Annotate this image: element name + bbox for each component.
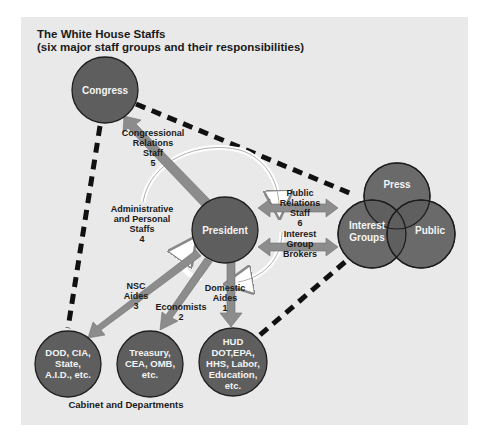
- svg-text:Aides: Aides: [124, 291, 149, 301]
- svg-text:Staffs: Staffs: [129, 224, 154, 234]
- dod-label-3: A.I.D., etc.: [45, 369, 91, 380]
- svg-text:Relations: Relations: [133, 138, 174, 148]
- svg-text:6: 6: [297, 218, 302, 228]
- label-interest-brokers: Interest Group Brokers: [283, 229, 317, 259]
- president-label: President: [202, 225, 248, 236]
- label-congressional: Congressional Relations Staff 5: [122, 128, 185, 168]
- dash-congress-dod: [68, 126, 100, 328]
- congress-label: Congress: [82, 85, 129, 96]
- svg-text:Public: Public: [286, 188, 313, 198]
- public-label: Public: [415, 225, 445, 236]
- interest-groups-label-1: Interest: [349, 220, 386, 231]
- svg-text:1: 1: [222, 303, 227, 313]
- treasury-label-1: Treasury,: [129, 347, 171, 358]
- svg-text:Aides: Aides: [213, 293, 238, 303]
- svg-text:2: 2: [178, 312, 183, 322]
- hud-label-4: Education,: [209, 369, 258, 380]
- label-administrative: Administrative and Personal Staffs 4: [111, 204, 174, 244]
- svg-text:Group: Group: [287, 239, 314, 249]
- treasury-label-3: etc.: [142, 369, 158, 380]
- hud-label-5: etc.: [225, 380, 241, 391]
- svg-text:and Personal: and Personal: [114, 214, 171, 224]
- treasury-label-2: CEA, OMB,: [125, 358, 175, 369]
- svg-text:Relations: Relations: [280, 198, 321, 208]
- svg-text:3: 3: [133, 301, 138, 311]
- hud-label-1: HUD: [223, 336, 244, 347]
- svg-text:Economists: Economists: [155, 302, 206, 312]
- svg-text:Congressional: Congressional: [122, 128, 185, 138]
- press-label: Press: [383, 179, 411, 190]
- svg-text:Staff: Staff: [143, 148, 164, 158]
- svg-text:Domestic: Domestic: [205, 283, 246, 293]
- svg-text:5: 5: [150, 158, 155, 168]
- svg-text:4: 4: [139, 234, 144, 244]
- hud-label-3: HHS, Labor,: [206, 358, 260, 369]
- white-house-staff-diagram: Congress President Press Public Interest…: [0, 0, 489, 446]
- dod-label-2: State,: [55, 358, 81, 369]
- hud-label-2: DOT,EPA,: [211, 347, 254, 358]
- dod-label-1: DOD, CIA,: [45, 347, 90, 358]
- svg-text:Staff: Staff: [290, 208, 311, 218]
- svg-text:Interest: Interest: [284, 229, 317, 239]
- svg-text:Brokers: Brokers: [283, 249, 317, 259]
- label-domestic: Domestic Aides 1: [205, 283, 246, 313]
- interest-groups-label-2: Groups: [349, 232, 385, 243]
- footer-label: Cabinet and Departments: [68, 399, 183, 410]
- svg-text:NSC: NSC: [126, 281, 146, 291]
- svg-text:Administrative: Administrative: [111, 204, 174, 214]
- dash-interest-hud: [260, 262, 345, 335]
